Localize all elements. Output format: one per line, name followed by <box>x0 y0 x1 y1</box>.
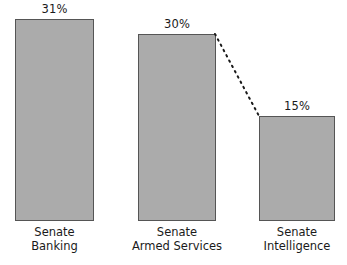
category-label-line-1: Senate <box>127 225 227 239</box>
value-label-senate-banking: 31% <box>15 2 94 16</box>
category-label-senate-intelligence: Senate Intelligence <box>250 225 344 253</box>
value-label-senate-armed-services: 30% <box>138 17 216 31</box>
category-label-line-1: Senate <box>250 225 344 239</box>
category-label-line-2: Intelligence <box>250 239 344 253</box>
value-label-senate-intelligence: 15% <box>259 99 335 113</box>
bar-chart: 31% Senate Banking 30% Senate Armed Serv… <box>0 0 347 265</box>
bar-senate-intelligence <box>259 116 335 221</box>
category-label-senate-banking: Senate Banking <box>15 225 94 253</box>
category-label-line-2: Banking <box>15 239 94 253</box>
bar-senate-armed-services <box>138 34 216 221</box>
category-label-line-2: Armed Services <box>127 239 227 253</box>
bar-senate-banking <box>15 19 94 221</box>
category-label-line-1: Senate <box>15 225 94 239</box>
category-label-senate-armed-services: Senate Armed Services <box>127 225 227 253</box>
